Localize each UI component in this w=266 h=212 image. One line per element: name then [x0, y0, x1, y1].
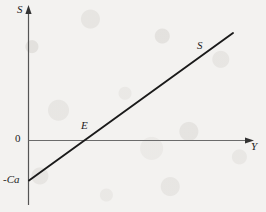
s-axis-label: S	[17, 4, 23, 15]
y-intercept-label-neg-ca: -Ca	[3, 174, 20, 185]
y-axis	[29, 137, 255, 143]
s-axis-arrowhead	[25, 5, 31, 14]
supply-line-s	[29, 33, 233, 181]
supply-curve-label-s: S	[197, 40, 203, 51]
supply-curve-figure: S Y 0 -Ca E S	[0, 0, 266, 212]
plot-canvas	[0, 0, 266, 212]
s-axis	[25, 5, 31, 205]
y-axis-label: Y	[251, 141, 257, 152]
x-intercept-label-e: E	[81, 120, 88, 131]
origin-label: 0	[15, 133, 21, 144]
